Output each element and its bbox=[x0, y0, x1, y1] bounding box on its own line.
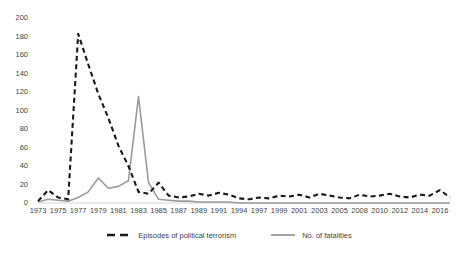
y-axis-tick: 80 bbox=[4, 124, 28, 133]
y-axis-tick: 40 bbox=[4, 161, 28, 170]
y-axis-tick: 140 bbox=[4, 69, 28, 78]
y-axis-tick: 160 bbox=[4, 50, 28, 59]
series-fatalities bbox=[38, 97, 450, 203]
legend-item-fatalities: No. of fatalities bbox=[270, 231, 352, 240]
solid-line-swatch bbox=[270, 231, 296, 239]
y-axis-tick: 20 bbox=[4, 180, 28, 189]
y-axis-tick: 0 bbox=[4, 198, 28, 207]
plot-area bbox=[0, 0, 458, 255]
y-axis-tick: 200 bbox=[4, 13, 28, 22]
y-axis-tick: 60 bbox=[4, 143, 28, 152]
y-axis-tick: 120 bbox=[4, 87, 28, 96]
line-chart: 020406080100120140160180200 197319751977… bbox=[0, 0, 458, 255]
series-episodes bbox=[38, 34, 450, 201]
chart-legend: Episodes of political terrorism No. of f… bbox=[0, 227, 458, 243]
legend-label-episodes: Episodes of political terrorism bbox=[138, 231, 236, 240]
legend-label-fatalities: No. of fatalities bbox=[302, 231, 352, 240]
x-axis-tick: 2016 bbox=[428, 206, 452, 215]
y-axis-tick: 100 bbox=[4, 106, 28, 115]
legend-item-episodes: Episodes of political terrorism bbox=[106, 231, 236, 240]
dashed-line-swatch bbox=[106, 231, 132, 239]
y-axis-tick: 180 bbox=[4, 32, 28, 41]
